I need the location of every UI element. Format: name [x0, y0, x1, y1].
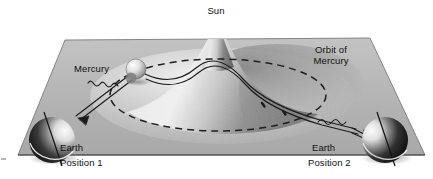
label-orbit-line-2: Mercury: [313, 55, 348, 66]
spacetime-curvature-diagram: Sun Mercury Orbit of Mercury Earth Posit…: [0, 0, 433, 179]
label-position-1: Position 1: [60, 157, 122, 168]
label-sun: Sun: [196, 5, 236, 16]
label-orbit-of-mercury: Orbit of Mercury: [298, 44, 364, 66]
label-earth-position-2: Earth: [312, 142, 358, 153]
label-position-2: Position 2: [308, 157, 370, 168]
mercury-lower-lobe: [126, 73, 137, 84]
label-mercury: Mercury: [57, 63, 109, 74]
label-earth-position-1: Earth: [60, 142, 106, 153]
label-orbit-line-1: Orbit of: [315, 44, 347, 55]
